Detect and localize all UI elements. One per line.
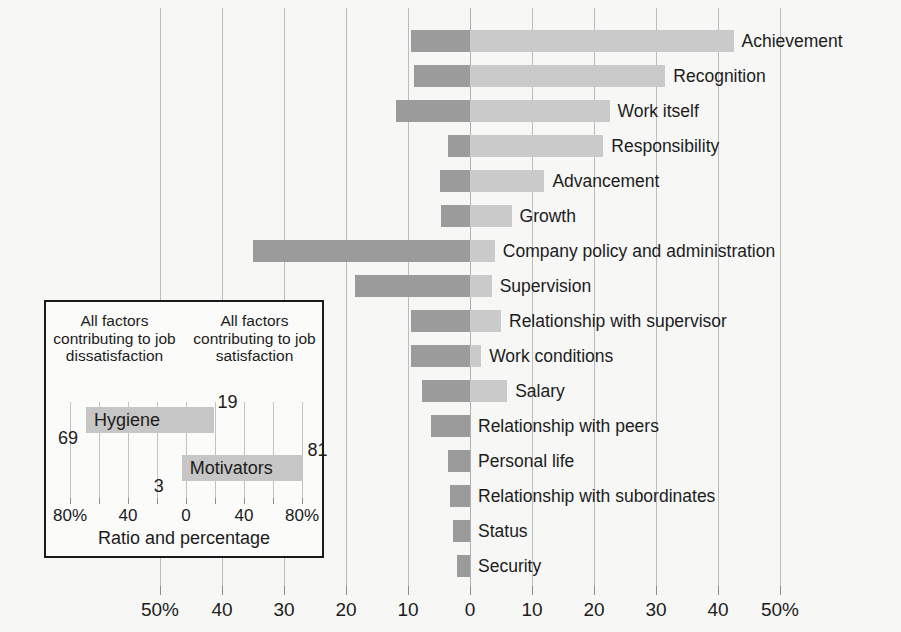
inset-value-left: 69: [58, 429, 78, 447]
x-tick-10: [532, 586, 533, 595]
x-tick-label: 40: [192, 600, 252, 619]
x-tick--20: [346, 586, 347, 595]
x-tick-0: [470, 586, 471, 595]
bar-segment-motivator: [470, 240, 495, 262]
inset-bar-name: Motivators: [190, 455, 273, 481]
inset-tick-label: 0: [156, 507, 216, 524]
bar-label: Advancement: [552, 170, 659, 192]
bar-segment-motivator: [470, 30, 734, 52]
x-tick-label: 30: [254, 600, 314, 619]
x-tick-label: 50%: [130, 600, 190, 619]
bar-segment-motivator: [470, 135, 603, 157]
bar-segment-hygiene: [457, 555, 470, 577]
bar-segment-hygiene: [411, 30, 470, 52]
inset-tick--20: [157, 498, 158, 504]
inset-bar-hygiene: Hygiene: [86, 407, 214, 433]
inset-tick-0: [186, 498, 187, 504]
bar-row: Responsibility: [0, 135, 901, 157]
bar-segment-hygiene: [441, 205, 470, 227]
bar-segment-motivator: [470, 380, 507, 402]
inset-tick-label: 80%: [272, 507, 332, 524]
bar-segment-hygiene: [431, 415, 470, 437]
legend-caption-dissatisfaction: All factors contributing to job dissatis…: [52, 312, 177, 365]
inset-tick-label: 40: [214, 507, 274, 524]
inset-bar-motivators: Motivators: [182, 455, 304, 481]
x-tick-label: 10: [502, 600, 562, 619]
inset-bar-name: Hygiene: [94, 407, 160, 433]
bar-label: Status: [478, 520, 528, 542]
bar-row: Advancement: [0, 170, 901, 192]
bar-row: Company policy and administration: [0, 240, 901, 262]
bar-segment-motivator: [470, 170, 544, 192]
x-tick--10: [408, 586, 409, 595]
bar-segment-motivator: [470, 310, 501, 332]
bar-label: Relationship with supervisor: [509, 310, 727, 332]
bar-label: Responsibility: [611, 135, 719, 157]
bar-row: Growth: [0, 205, 901, 227]
inset-tick-40: [244, 498, 245, 504]
bar-label: Company policy and administration: [503, 240, 775, 262]
bar-row: Supervision: [0, 275, 901, 297]
x-tick-label: 10: [378, 600, 438, 619]
bar-segment-motivator: [470, 205, 512, 227]
bar-label: Supervision: [500, 275, 591, 297]
herzberg-two-factor-chart: AchievementRecognitionWork itselfRespons…: [0, 0, 901, 632]
inset-value-left: 3: [154, 477, 164, 495]
bar-segment-motivator: [470, 275, 492, 297]
bar-row: Achievement: [0, 30, 901, 52]
inset-tick-80: [302, 498, 303, 504]
bar-label: Recognition: [673, 65, 765, 87]
inset-value-right: 81: [307, 441, 327, 459]
x-tick-label: 20: [316, 600, 376, 619]
legend-inset: All factors contributing to job dissatis…: [44, 300, 324, 558]
inset-tick-20: [215, 498, 216, 504]
inset-gridline-40: [244, 402, 245, 498]
x-tick-label: 20: [564, 600, 624, 619]
bar-segment-motivator: [470, 345, 481, 367]
x-tick-30: [656, 586, 657, 595]
bar-segment-hygiene: [440, 170, 470, 192]
x-tick--50: [160, 586, 161, 595]
bar-segment-hygiene: [448, 135, 470, 157]
bar-segment-hygiene: [414, 65, 470, 87]
inset-gridline-20: [215, 402, 216, 498]
bar-label: Security: [478, 555, 541, 577]
bar-label: Salary: [515, 380, 565, 402]
bar-label: Work itself: [618, 100, 699, 122]
inset-tick-label: 40: [98, 507, 158, 524]
x-tick-label: 40: [688, 600, 748, 619]
legend-caption-satisfaction: All factors contributing to job satisfac…: [192, 312, 317, 365]
bar-segment-hygiene: [253, 240, 470, 262]
bar-label: Work conditions: [489, 345, 613, 367]
bar-segment-hygiene: [422, 380, 470, 402]
inset-tick--80: [70, 498, 71, 504]
x-tick-label: 0: [440, 600, 500, 619]
bar-row: Work itself: [0, 100, 901, 122]
inset-value-right: 19: [218, 393, 238, 411]
bar-label: Relationship with subordinates: [478, 485, 715, 507]
bar-segment-motivator: [470, 65, 665, 87]
bar-segment-hygiene: [411, 310, 470, 332]
x-tick-20: [594, 586, 595, 595]
x-tick-50: [780, 586, 781, 595]
bar-label: Achievement: [742, 30, 843, 52]
x-tick--40: [222, 586, 223, 595]
x-tick-40: [718, 586, 719, 595]
bar-segment-hygiene: [355, 275, 470, 297]
bar-segment-hygiene: [396, 100, 470, 122]
x-tick--30: [284, 586, 285, 595]
x-tick-label: 30: [626, 600, 686, 619]
inset-tick--60: [99, 498, 100, 504]
inset-tick-label: 80%: [40, 507, 100, 524]
inset-gridline-60: [273, 402, 274, 498]
bar-segment-hygiene: [411, 345, 470, 367]
bar-row: Recognition: [0, 65, 901, 87]
bar-label: Relationship with peers: [478, 415, 659, 437]
bar-segment-motivator: [470, 100, 610, 122]
bar-segment-hygiene: [448, 450, 470, 472]
bar-segment-hygiene: [450, 485, 470, 507]
bar-label: Growth: [520, 205, 576, 227]
inset-gridline--80: [70, 402, 71, 498]
inset-axis-title: Ratio and percentage: [46, 528, 322, 549]
bar-segment-hygiene: [453, 520, 470, 542]
